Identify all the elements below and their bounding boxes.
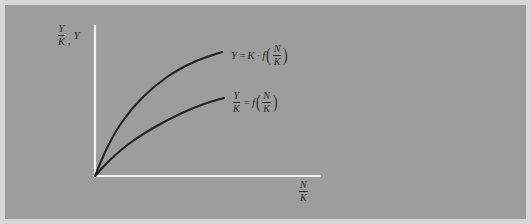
curve-upper-label: Y = K · f ( N K ) (231, 44, 289, 67)
curve-upper-arg-numerator: N (273, 44, 282, 56)
curve-lower-function: f (252, 97, 255, 108)
curve-upper-dot: · (257, 50, 261, 61)
curve-lower-lhs-fraction: Y K (232, 91, 241, 114)
curve-lower-label: Y K = f ( N K ) (231, 91, 278, 114)
x-axis-label: N K (298, 180, 309, 203)
x-axis-fraction: N K (299, 180, 308, 203)
curve-lower-lhs-denominator: K (232, 103, 241, 114)
curve-upper-equals: = (239, 50, 245, 61)
curve-lower-lhs-numerator: Y (233, 91, 241, 103)
curve-upper-lhs: Y (231, 50, 237, 61)
x-axis-fraction-numerator: N (299, 180, 308, 192)
curve-lower-equals: = (244, 97, 250, 108)
curve-lower (95, 98, 224, 176)
curve-upper-arg-denominator: K (273, 56, 282, 67)
x-axis-fraction-denominator: K (299, 192, 308, 203)
y-axis-label-second-term: Y (73, 30, 79, 41)
figure-container: Y K , Y N K Y = K · f ( N K ) Y K = f ( … (0, 0, 531, 224)
curve-lower-arg-numerator: N (262, 91, 271, 103)
y-axis-label: Y K , Y (56, 24, 80, 47)
curve-lower-open-paren: ( (256, 94, 261, 110)
curve-upper-argument-fraction: N K (273, 44, 282, 67)
y-axis-fraction-denominator: K (57, 36, 66, 47)
curve-upper-open-paren: ( (266, 47, 271, 63)
curve-upper-close-paren: ) (283, 47, 288, 63)
curve-lower-argument-fraction: N K (262, 91, 271, 114)
y-axis-fraction: Y K (57, 24, 66, 47)
y-axis-label-separator: , (68, 35, 71, 47)
curve-upper-coefficient: K (247, 50, 254, 61)
curve-lower-close-paren: ) (273, 94, 278, 110)
y-axis-fraction-numerator: Y (58, 24, 66, 36)
curve-lower-arg-denominator: K (262, 103, 271, 114)
